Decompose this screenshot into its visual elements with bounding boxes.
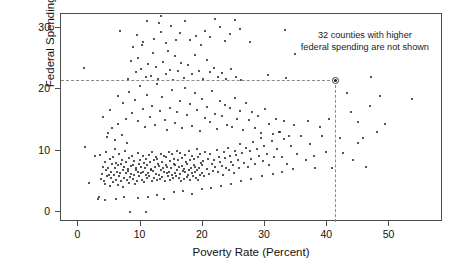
data-point <box>171 89 173 91</box>
data-point <box>166 166 168 168</box>
data-point <box>384 123 386 125</box>
data-point <box>188 150 190 152</box>
data-point <box>247 166 249 168</box>
data-point <box>209 153 211 155</box>
data-point <box>212 170 214 172</box>
data-point <box>188 169 190 171</box>
data-point <box>108 174 110 176</box>
data-point <box>262 160 264 162</box>
data-point <box>199 174 201 176</box>
data-point <box>197 156 199 158</box>
data-point <box>146 177 148 179</box>
data-point <box>125 161 127 163</box>
data-point <box>141 44 143 46</box>
data-point <box>189 103 191 105</box>
data-point <box>198 167 200 169</box>
data-point <box>325 151 327 153</box>
data-point <box>283 120 285 122</box>
data-point <box>128 91 130 93</box>
data-point <box>176 150 178 152</box>
data-point <box>149 116 151 118</box>
data-point <box>178 166 180 168</box>
data-point <box>245 102 247 104</box>
data-point <box>160 15 162 17</box>
data-point <box>313 155 315 157</box>
data-point <box>167 50 169 52</box>
data-point <box>206 59 208 61</box>
data-point <box>117 184 119 186</box>
data-point <box>104 183 106 185</box>
data-point <box>168 171 170 173</box>
data-point <box>155 66 157 68</box>
data-point <box>234 97 236 99</box>
x-tick-label: 50 <box>383 228 395 240</box>
data-point <box>161 176 163 178</box>
data-point <box>183 178 185 180</box>
data-point <box>201 172 203 174</box>
data-point <box>219 26 221 28</box>
data-point <box>119 30 121 32</box>
data-point <box>321 135 323 137</box>
data-point <box>165 42 167 44</box>
data-point <box>201 188 203 190</box>
x-tick-label: 30 <box>258 228 270 240</box>
data-point <box>143 162 145 164</box>
data-point <box>110 171 112 173</box>
data-point <box>328 118 330 120</box>
data-point <box>121 159 123 161</box>
data-point <box>281 156 283 158</box>
data-point <box>193 158 195 160</box>
y-tick-label: 10 <box>38 144 50 156</box>
data-point <box>114 148 116 150</box>
data-point <box>225 78 227 80</box>
data-point <box>206 168 208 170</box>
data-point <box>272 173 274 175</box>
data-point <box>160 31 162 33</box>
data-point <box>119 172 121 174</box>
data-point <box>296 153 298 155</box>
data-point <box>264 108 266 110</box>
data-point <box>199 153 201 155</box>
data-point <box>235 76 237 78</box>
data-point <box>138 175 140 177</box>
data-point <box>235 154 237 156</box>
data-point <box>175 175 177 177</box>
x-tick <box>140 221 141 226</box>
data-point <box>142 155 144 157</box>
data-point <box>167 175 169 177</box>
data-point <box>183 77 185 79</box>
data-point <box>209 71 211 73</box>
data-point <box>176 169 178 171</box>
data-point <box>133 174 135 176</box>
data-point <box>224 40 226 42</box>
data-point <box>260 137 262 139</box>
data-point <box>117 123 119 125</box>
data-point <box>133 160 135 162</box>
data-point <box>249 41 251 43</box>
x-tick <box>77 221 78 226</box>
data-point <box>156 179 158 181</box>
data-point <box>199 130 201 132</box>
data-point <box>202 160 204 162</box>
data-point <box>109 158 111 160</box>
data-point <box>174 164 176 166</box>
data-point <box>142 41 144 43</box>
data-point <box>152 52 154 54</box>
data-point <box>130 60 132 62</box>
data-point <box>300 135 302 137</box>
data-point <box>158 165 160 167</box>
data-point <box>145 76 147 78</box>
data-point <box>83 67 85 69</box>
data-point <box>346 92 348 94</box>
data-point <box>132 164 134 166</box>
data-point <box>208 173 210 175</box>
data-point <box>173 158 175 160</box>
data-point <box>250 158 252 160</box>
data-point <box>107 167 109 169</box>
data-point <box>166 172 168 174</box>
data-point <box>221 115 223 117</box>
data-point <box>187 64 189 66</box>
data-point <box>217 171 219 173</box>
data-point <box>120 180 122 182</box>
scatter-plot-figure: Federal Spending Per Capita 0102030 32 c… <box>0 0 453 279</box>
